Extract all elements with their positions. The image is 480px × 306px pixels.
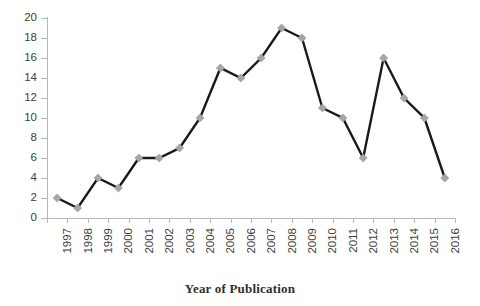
data-point-2016 — [441, 174, 449, 182]
data-point-2009 — [298, 34, 306, 42]
line-chart: 20181614121086420 1997199819992000200120… — [0, 0, 480, 306]
data-point-2011 — [339, 114, 347, 122]
data-point-2005 — [216, 64, 224, 72]
data-point-2013 — [380, 54, 388, 62]
data-point-2002 — [155, 154, 163, 162]
x-axis-title: Year of Publication — [0, 281, 480, 297]
data-point-2012 — [359, 154, 367, 162]
data-point-2010 — [318, 104, 326, 112]
series-layer — [0, 0, 480, 306]
series-line-publications — [57, 28, 445, 208]
data-point-1997 — [53, 194, 61, 202]
